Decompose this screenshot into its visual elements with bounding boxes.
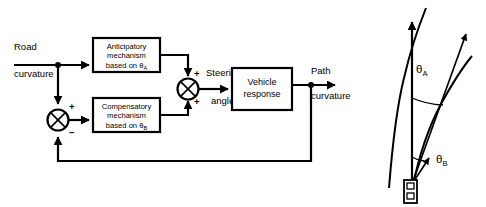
input-label-line1: Road [14, 41, 37, 52]
car-rear-window [407, 193, 414, 199]
anticipatory-line3-prefix: based on [106, 61, 139, 70]
angle-near-label: θB [436, 153, 447, 168]
block-diagram-group: Road curvature + − Anticipatory [14, 38, 351, 161]
angle-far-subscript: A [422, 69, 428, 78]
error-junction-sign-bottom: − [69, 127, 75, 138]
compensatory-line3: based on θB [106, 121, 148, 131]
error-junction-sign-top: + [69, 101, 75, 112]
anticipatory-line3: based on θA [106, 61, 148, 71]
steering-angle-label-line2: angle [211, 95, 234, 106]
block-vehicle-response: Vehicle response [232, 68, 292, 110]
output-label-line2: curvature [311, 90, 351, 101]
figure-svg: Road curvature + − Anticipatory [0, 0, 486, 207]
block-compensatory: Compensatory mechanism based on θB [93, 98, 160, 132]
car-windshield [407, 183, 414, 189]
anticipatory-line2: mechanism [107, 51, 146, 60]
car-icon [404, 180, 417, 203]
compensatory-line1: Compensatory [102, 102, 152, 111]
steering-junction-sign-top: + [194, 68, 200, 79]
compensatory-line3-prefix: based on [106, 121, 139, 130]
vehicle-line1: Vehicle [247, 77, 276, 87]
vehicle-line2: response [243, 89, 280, 99]
output-label-line1: Path [311, 65, 331, 76]
angle-near-subscript: B [442, 159, 447, 168]
anticipatory-line3-subscript: A [143, 65, 147, 71]
angle-far-label: θA [416, 63, 428, 78]
wire-anticipatory-to-steering-junction [160, 55, 188, 76]
input-label-line2: curvature [14, 68, 54, 79]
steering-junction-sign-bottom: + [194, 96, 200, 107]
road-geometry-group: θA θB [389, 8, 472, 203]
compensatory-line2: mechanism [107, 111, 146, 120]
wire-compensatory-to-steering-junction [160, 101, 188, 115]
block-anticipatory: Anticipatory mechanism based on θA [93, 38, 160, 72]
compensatory-line3-subscript: B [143, 125, 147, 131]
figure-canvas: Road curvature + − Anticipatory [0, 0, 486, 207]
anticipatory-line1: Anticipatory [107, 42, 147, 51]
angle-arc-far [412, 98, 443, 105]
